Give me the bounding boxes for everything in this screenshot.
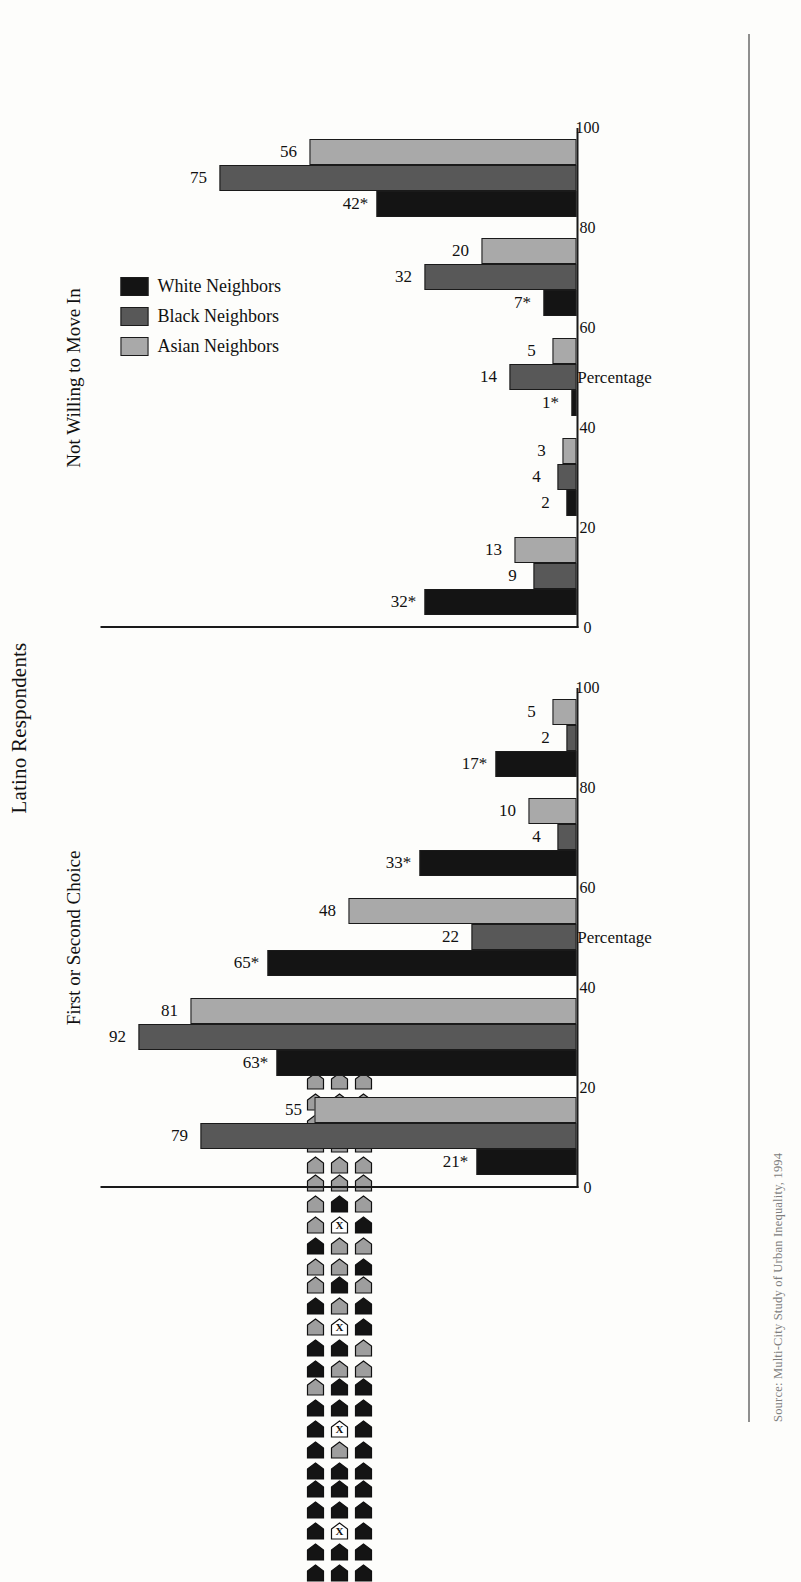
bar-value-label: 4 xyxy=(532,827,541,847)
bar-asian-n: 5 xyxy=(552,699,576,725)
bar-cell: 42* xyxy=(100,191,576,217)
bar-value-label: 81 xyxy=(161,1001,178,1021)
respondent-x-label: X xyxy=(329,1420,349,1438)
axis-tick-0: 0 xyxy=(583,1179,591,1197)
black-house-icon xyxy=(353,1543,373,1561)
panel-title: First or Second Choice xyxy=(62,688,84,1188)
bar-cell: 4 xyxy=(100,464,576,490)
caption-divider xyxy=(748,34,749,1422)
bar-cell: 79 xyxy=(100,1123,576,1149)
bar-value-label: 3 xyxy=(536,441,545,461)
bar-cell: 9 xyxy=(100,563,576,589)
black-house-icon xyxy=(305,1237,325,1255)
figure-title: Latino Respondents xyxy=(6,0,31,1456)
bar-white-n: 42* xyxy=(376,191,576,217)
legend-swatch-black-n xyxy=(120,307,148,326)
bar-asian-n: 5 xyxy=(552,338,576,364)
panel-first-or-second-choice: First or Second Choice 21*795563*928165*… xyxy=(64,688,676,1188)
house-row xyxy=(305,1543,373,1561)
black-house-icon xyxy=(353,1480,373,1498)
axis-tick-60: 60 xyxy=(579,879,595,897)
house-row xyxy=(305,1378,373,1396)
bar-black-n: 92 xyxy=(138,1024,576,1050)
bar-cell: 65* xyxy=(100,950,576,976)
house-row xyxy=(305,1399,373,1417)
black-house-icon xyxy=(353,1441,373,1459)
bar-black-n: 22 xyxy=(471,924,576,950)
bar-white-n: 2 xyxy=(566,490,576,516)
bar-value-label: 2 xyxy=(541,493,550,513)
plot-area: 32*9132431*1457*322042*7556 xyxy=(100,128,578,628)
white-house-icon xyxy=(305,1195,325,1213)
bar-group: 42*7556 xyxy=(100,139,576,217)
legend-label: Black Neighbors xyxy=(157,306,278,327)
bar-asian-n: 13 xyxy=(514,537,576,563)
house-row xyxy=(305,1462,373,1480)
bar-cell: 20 xyxy=(100,238,576,264)
bar-cell: 56 xyxy=(100,139,576,165)
bar-cell: 5 xyxy=(100,699,576,725)
axis-tick-20: 20 xyxy=(579,519,595,537)
bar-asian-n: 20 xyxy=(481,238,576,264)
black-house-icon xyxy=(305,1339,325,1357)
figure-caption: Source: Multi-City Study of Urban Inequa… xyxy=(770,34,785,1422)
white-house-icon xyxy=(353,1276,373,1294)
bar-value-label: 17* xyxy=(461,754,487,774)
respondent-house-icon: X xyxy=(329,1522,349,1540)
black-house-icon xyxy=(353,1318,373,1336)
house-row: X xyxy=(305,1522,373,1540)
black-house-icon xyxy=(329,1564,349,1582)
bar-value-label: 14 xyxy=(480,367,497,387)
house-row: X xyxy=(305,1318,373,1336)
black-house-icon xyxy=(353,1297,373,1315)
black-house-icon xyxy=(353,1258,373,1276)
axis-tick-100: 100 xyxy=(575,119,599,137)
bar-value-label: 22 xyxy=(442,927,459,947)
legend-label: White Neighbors xyxy=(157,276,280,297)
bar-cell: 13 xyxy=(100,537,576,563)
house-row xyxy=(305,1501,373,1519)
bar-value-label: 5 xyxy=(527,702,536,722)
black-house-icon xyxy=(329,1480,349,1498)
house-row: X xyxy=(305,1420,373,1438)
bar-group: 32*913 xyxy=(100,537,576,615)
neighborhood-card-3: X xyxy=(234,1276,444,1378)
legend-swatch-asian-n xyxy=(120,337,148,356)
bar-group: 17*25 xyxy=(100,699,576,777)
axis-tick-100: 100 xyxy=(575,679,599,697)
bar-white-n: 33* xyxy=(419,850,576,876)
white-house-icon xyxy=(305,1276,325,1294)
white-house-icon xyxy=(305,1216,325,1234)
bar-cell: 92 xyxy=(100,1024,576,1050)
white-house-icon xyxy=(305,1258,325,1276)
legend-item-white-n: White Neighbors xyxy=(120,276,280,297)
black-house-icon xyxy=(305,1522,325,1540)
bar-black-n: 32 xyxy=(424,264,576,290)
black-house-icon xyxy=(305,1441,325,1459)
bar-cell: 3 xyxy=(100,438,576,464)
bar-cell: 1* xyxy=(100,390,576,416)
house-row xyxy=(305,1339,373,1357)
white-house-icon xyxy=(329,1441,349,1459)
neighborhood-card-5: X xyxy=(234,1480,444,1582)
bar-white-n: 17* xyxy=(495,751,576,777)
bar-group: 63*9281 xyxy=(100,998,576,1076)
house-row xyxy=(305,1441,373,1459)
white-house-icon xyxy=(305,1378,325,1396)
black-house-icon xyxy=(329,1378,349,1396)
bar-white-n: 65* xyxy=(267,950,576,976)
bar-cell: 48 xyxy=(100,898,576,924)
house-row xyxy=(305,1297,373,1315)
axis-tick-80: 80 xyxy=(579,779,595,797)
axis-tick-60: 60 xyxy=(579,319,595,337)
respondent-x-label: X xyxy=(329,1216,349,1234)
neighborhood-card-2: X xyxy=(234,1174,444,1276)
bar-black-n: 14 xyxy=(509,364,576,390)
bar-white-n: 32* xyxy=(424,589,576,615)
black-house-icon xyxy=(305,1462,325,1480)
axis-tick-80: 80 xyxy=(579,219,595,237)
bar-white-n: 63* xyxy=(276,1050,576,1076)
respondent-x-label: X xyxy=(329,1522,349,1540)
white-house-icon xyxy=(329,1258,349,1276)
